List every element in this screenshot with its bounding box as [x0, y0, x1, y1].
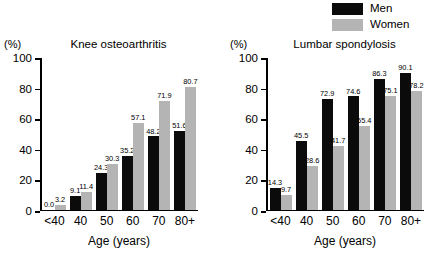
bar-group: 51.680.780+: [172, 58, 198, 210]
x-tick-label: 50: [100, 214, 113, 228]
bar-value-label: 72.9: [320, 90, 334, 97]
x-tick-label: 70: [152, 214, 165, 228]
bar-group: 72.941.750: [320, 58, 346, 210]
y-tick-label: 60: [19, 113, 32, 125]
bar-men: 72.9: [322, 99, 333, 209]
x-tick-label: 60: [126, 214, 139, 228]
bar-value-label: 11.4: [79, 183, 93, 190]
y-tick-label: 100: [13, 52, 32, 64]
bar-women: 30.3: [107, 164, 118, 210]
bar-men: 14.3: [270, 188, 281, 210]
bar-groups: 14.39.7<4045.528.64072.941.75074.655.460…: [268, 58, 425, 210]
y-tick-label: 100: [239, 52, 258, 64]
bar-group: 9.111.440: [68, 58, 94, 210]
bar-women: 11.4: [81, 192, 92, 209]
x-tick-label: 80+: [175, 214, 195, 228]
y-tick-mark: [35, 58, 40, 60]
y-tick-mark: [35, 150, 40, 152]
bar-group: 48.271.970: [146, 58, 172, 210]
bar-group: 14.39.7<40: [268, 58, 294, 210]
y-tick-mark: [261, 211, 266, 213]
bar-group: 45.528.640: [294, 58, 320, 210]
x-axis-title: Age (years): [40, 234, 198, 248]
y-tick-label: 0: [252, 205, 258, 217]
bar-men: 51.6: [174, 131, 185, 209]
bar-group: 35.257.160: [120, 58, 146, 210]
bar-groups: 0.03.2<409.111.44024.330.35035.257.16048…: [42, 58, 199, 210]
y-tick-mark: [35, 180, 40, 182]
bar-women: 3.2: [55, 205, 66, 210]
x-tick-label: 70: [378, 214, 391, 228]
bar-men: 90.1: [400, 73, 411, 210]
x-tick-label: 40: [300, 214, 313, 228]
chart-panel-lumbar-spondylosis: (%) Lumbar spondylosis 020406080100 14.3…: [228, 38, 433, 266]
legend-item-men: Men: [332, 2, 409, 15]
men-swatch-icon: [332, 3, 363, 15]
y-tick-mark: [261, 180, 266, 182]
bar-value-label: 55.4: [357, 117, 371, 124]
plot-area: 020406080100 0.03.2<409.111.44024.330.35…: [40, 58, 198, 211]
bar-value-label: 78.2: [409, 82, 423, 89]
x-tick-label: 40: [74, 214, 87, 228]
legend-label-men: Men: [370, 3, 392, 15]
bar-group: 86.375.170: [372, 58, 398, 210]
legend-label-women: Women: [370, 19, 409, 31]
y-tick-label: 40: [19, 144, 32, 156]
bar-women: 41.7: [333, 146, 344, 209]
bar-men: 45.5: [296, 141, 307, 210]
bar-women: 55.4: [359, 126, 370, 210]
bar-women: 80.7: [185, 87, 196, 209]
bar-value-label: 57.1: [131, 114, 145, 121]
plot-area: 020406080100 14.39.7<4045.528.64072.941.…: [266, 58, 424, 211]
bar-men: 24.3: [96, 173, 107, 210]
x-axis-line: [40, 210, 198, 212]
bar-value-label: 75.1: [383, 87, 397, 94]
y-tick-label: 20: [19, 174, 32, 186]
bar-value-label: 30.3: [105, 155, 119, 162]
y-tick-label: 80: [245, 83, 258, 95]
bar-value-label: 74.6: [346, 88, 360, 95]
y-tick-mark: [261, 119, 266, 121]
bar-group: 74.655.460: [346, 58, 372, 210]
bar-value-label: 3.2: [55, 196, 65, 203]
chart-title: Knee osteoarthritis: [2, 38, 207, 50]
bar-value-label: 90.1: [398, 64, 412, 71]
bar-women: 75.1: [385, 96, 396, 210]
bar-value-label: 86.3: [372, 70, 386, 77]
bar-value-label: 71.9: [157, 92, 171, 99]
y-tick-label: 0: [26, 205, 32, 217]
bar-group: 0.03.2<40: [42, 58, 68, 210]
y-tick-label: 60: [245, 113, 258, 125]
bar-men: 86.3: [374, 79, 385, 210]
x-tick-label: <40: [270, 214, 290, 228]
bar-women: 9.7: [281, 195, 292, 210]
y-tick-mark: [261, 150, 266, 152]
y-tick-mark: [35, 89, 40, 91]
bar-value-label: 0.0: [44, 201, 54, 208]
bar-value-label: 45.5: [294, 132, 308, 139]
bar-value-label: 41.7: [331, 137, 345, 144]
bar-value-label: 28.6: [305, 157, 319, 164]
legend-item-women: Women: [332, 18, 409, 31]
y-tick-label: 80: [19, 83, 32, 95]
x-tick-label: 80+: [401, 214, 421, 228]
y-tick-mark: [261, 58, 266, 60]
y-tick-mark: [261, 89, 266, 91]
bar-value-label: 80.7: [183, 78, 197, 85]
bar-group: 90.178.280+: [398, 58, 424, 210]
women-swatch-icon: [332, 19, 363, 31]
x-axis-line: [266, 210, 424, 212]
y-tick-label: 20: [245, 174, 258, 186]
bar-group: 24.330.350: [94, 58, 120, 210]
x-tick-label: 50: [326, 214, 339, 228]
bar-women: 28.6: [307, 166, 318, 209]
bar-women: 78.2: [411, 91, 422, 209]
y-tick-mark: [35, 119, 40, 121]
bar-men: 74.6: [348, 96, 359, 209]
bar-men: 9.1: [70, 196, 81, 210]
x-tick-label: <40: [44, 214, 64, 228]
bar-women: 71.9: [159, 101, 170, 210]
bar-value-label: 9.7: [281, 186, 291, 193]
y-tick-label: 40: [245, 144, 258, 156]
bar-men: 35.2: [122, 156, 133, 209]
